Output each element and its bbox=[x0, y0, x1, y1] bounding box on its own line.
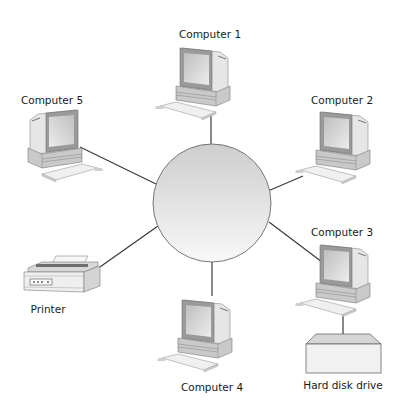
computer-3-label: Computer 3 bbox=[311, 226, 373, 238]
link-computer-5 bbox=[80, 147, 156, 184]
hard-disk-drive-label: Hard disk drive bbox=[303, 379, 383, 391]
computer-icon bbox=[295, 112, 370, 184]
printer-node: Printer bbox=[24, 256, 100, 315]
computer-icon bbox=[157, 300, 232, 372]
computer-icon bbox=[295, 245, 370, 317]
link-computer-2 bbox=[268, 176, 303, 191]
star-network-diagram: Computer 1 Computer 5 Computer 2 Compute… bbox=[0, 0, 400, 406]
computer-5-label: Computer 5 bbox=[21, 94, 83, 106]
computer-1-label: Computer 1 bbox=[179, 28, 241, 40]
hub-circle bbox=[153, 144, 271, 262]
computer-4-node: Computer 4 bbox=[157, 300, 243, 393]
computer-2-label: Computer 2 bbox=[311, 94, 373, 106]
computer-1-node: Computer 1 bbox=[155, 28, 241, 120]
computer-3-node: Computer 3 bbox=[295, 226, 373, 317]
hard-disk-drive-icon bbox=[306, 334, 381, 373]
computer-5-node: Computer 5 bbox=[21, 94, 103, 182]
computer-icon bbox=[28, 110, 103, 182]
computer-2-node: Computer 2 bbox=[295, 94, 373, 184]
computer-4-label: Computer 4 bbox=[181, 381, 244, 393]
computer-icon bbox=[155, 48, 230, 120]
printer-icon bbox=[24, 256, 100, 292]
hard-disk-drive-node: Hard disk drive bbox=[303, 334, 383, 391]
printer-label: Printer bbox=[31, 303, 67, 315]
